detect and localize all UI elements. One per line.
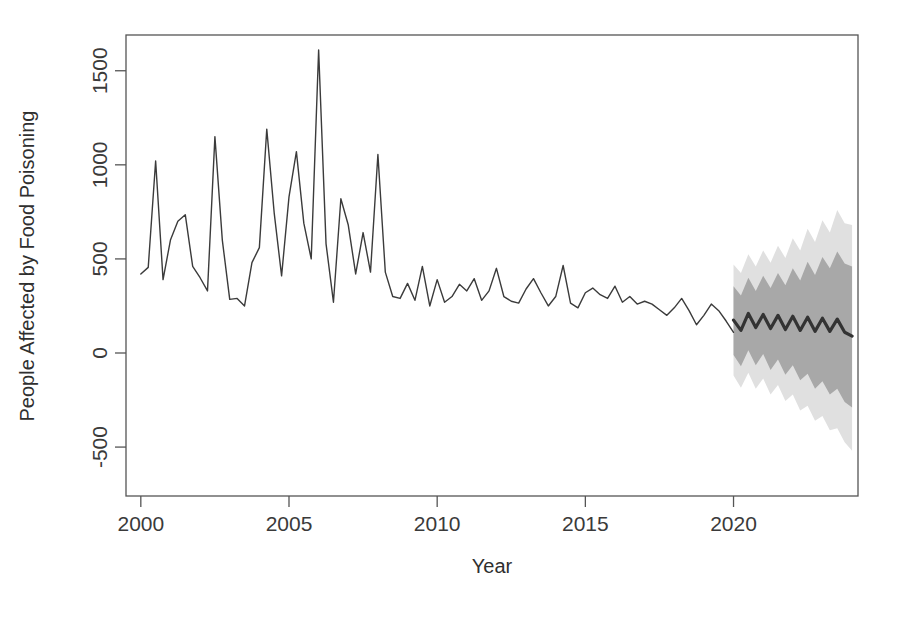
y-tick-label: 1000: [88, 141, 111, 188]
y-tick-label: 0: [88, 347, 111, 359]
x-axis-tick-labels: 20002005201020152020: [117, 512, 756, 535]
observed-series-line: [141, 50, 734, 332]
x-tick-label: 2010: [414, 512, 461, 535]
y-axis-title: People Affected by Food Poisoning: [16, 111, 38, 422]
x-tick-label: 2015: [562, 512, 609, 535]
y-axis-tick-labels: -500050010001500: [88, 47, 111, 468]
y-axis-ticks: [115, 71, 126, 447]
x-axis-ticks: [141, 496, 734, 507]
forecast-plot-canvas: 20002005201020152020 -500050010001500 Ye…: [0, 0, 904, 626]
x-tick-label: 2020: [710, 512, 757, 535]
forecast-figure: 20002005201020152020 -500050010001500 Ye…: [0, 0, 904, 626]
y-tick-label: -500: [88, 426, 111, 468]
x-axis-title: Year: [472, 555, 513, 577]
x-tick-label: 2000: [117, 512, 164, 535]
x-tick-label: 2005: [266, 512, 313, 535]
y-tick-label: 1500: [88, 47, 111, 94]
y-tick-label: 500: [88, 241, 111, 276]
